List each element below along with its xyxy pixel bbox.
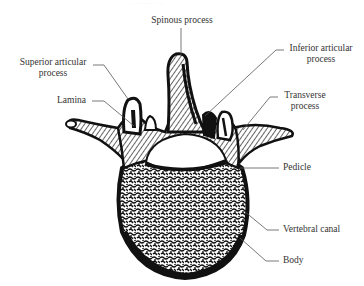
inferior-articular-process bbox=[203, 112, 233, 140]
label-text: process bbox=[282, 54, 360, 65]
superior-articular-process bbox=[124, 98, 157, 134]
leader-vertebral-canal bbox=[244, 211, 279, 230]
label-vertebral-canal: Vertebral canal bbox=[283, 224, 340, 235]
label-spinous-process: Spinous process bbox=[142, 15, 222, 26]
label-text: Inferior articular bbox=[282, 43, 360, 54]
label-lamina: Lamina bbox=[57, 95, 86, 106]
label-body: Body bbox=[283, 255, 304, 266]
label-text: process bbox=[13, 68, 93, 79]
label-superior-articular-process: Superior articular process bbox=[13, 57, 93, 79]
label-transverse-process: Transverse process bbox=[279, 90, 331, 112]
label-inferior-articular-process: Inferior articular process bbox=[282, 43, 360, 65]
label-pedicle: Pedicle bbox=[283, 162, 311, 173]
leader-inferior-articular bbox=[205, 50, 284, 116]
label-text: Pedicle bbox=[283, 162, 311, 172]
leader-body bbox=[240, 238, 279, 261]
label-text: Transverse bbox=[279, 90, 331, 101]
label-text: Body bbox=[283, 255, 304, 265]
faint-caption: · · · · · · · · · · · · bbox=[130, 1, 164, 6]
label-text: Spinous process bbox=[151, 15, 213, 25]
right-transverse-process bbox=[232, 125, 293, 162]
label-text: Lamina bbox=[57, 95, 86, 105]
spinous-process bbox=[168, 54, 205, 132]
leader-superior-articular bbox=[93, 65, 128, 99]
label-text: Vertebral canal bbox=[283, 224, 340, 234]
label-text: Superior articular bbox=[13, 57, 93, 68]
label-text: process bbox=[279, 101, 331, 112]
